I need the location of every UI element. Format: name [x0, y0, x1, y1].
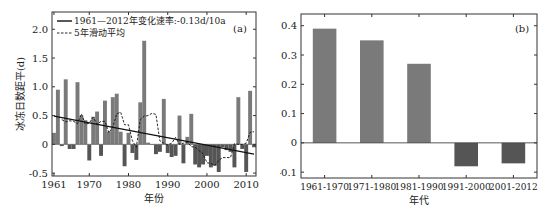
y-tick-label: 0.1 [281, 108, 297, 119]
bar [197, 144, 201, 167]
bar [111, 97, 115, 144]
bar [91, 117, 95, 145]
bar [454, 143, 478, 166]
figure: -0.500.51.01.52.019611970198019902000201… [0, 0, 557, 216]
bar [68, 144, 72, 149]
bar [154, 144, 158, 154]
x-tick-label: 1980 [116, 179, 141, 190]
bar [76, 82, 80, 144]
y-axis-label: 冰冻日数距平(d) [14, 57, 26, 131]
bar [99, 144, 103, 156]
bar [127, 133, 131, 145]
bar [360, 40, 384, 143]
bar [166, 144, 170, 153]
panel-label: (a) [233, 23, 247, 34]
bar [107, 132, 111, 145]
x-tick-label: 1981-1990 [395, 182, 444, 192]
bar [229, 144, 233, 151]
bar [138, 102, 142, 144]
bar [240, 144, 244, 149]
panel-label: (b) [515, 23, 529, 34]
x-tick-label: 2001-2012 [489, 182, 538, 192]
bar [52, 133, 56, 145]
y-tick-label: -0.1 [280, 167, 297, 178]
chart-b-decadal-anomaly: 1961-19701971-19801981-19901991-20002001… [280, 0, 557, 216]
legend-trend-label: 1961—2012年变化速率:-0.13d/10a [74, 15, 226, 26]
y-tick-label: 0 [291, 137, 297, 148]
bar [64, 79, 68, 144]
bar [217, 144, 221, 172]
bar [189, 114, 193, 144]
bar [236, 97, 240, 144]
y-tick-label: 0 [42, 139, 48, 150]
bar [79, 116, 83, 145]
bar [201, 144, 205, 164]
x-tick-label: 1961 [41, 179, 66, 190]
x-axis-label: 年代 [409, 194, 429, 206]
bar [407, 64, 431, 143]
bar [221, 144, 225, 147]
x-tick-label: 1991-2000 [442, 182, 491, 192]
x-tick-label: 2000 [194, 179, 219, 190]
x-tick-label: 1961-1970 [300, 182, 349, 192]
x-tick-label: 1971-1980 [347, 182, 396, 192]
bar [181, 144, 185, 163]
bar [158, 144, 162, 151]
bar [142, 41, 146, 145]
bar [313, 29, 337, 143]
y-tick-label: 0.5 [32, 110, 48, 121]
x-tick-label: 1970 [77, 179, 102, 190]
y-tick-label: 1.5 [32, 53, 48, 64]
bar [72, 144, 76, 149]
x-tick-label: 1990 [155, 179, 180, 190]
bar [170, 144, 174, 157]
y-tick-label: -0.5 [29, 168, 48, 179]
y-tick-label: 0.4 [281, 20, 297, 31]
bar [95, 112, 99, 145]
legend-ma-label: 5年滑动平均 [74, 27, 125, 38]
y-tick-label: 2.0 [32, 24, 48, 35]
y-tick-label: 0.2 [281, 79, 297, 90]
bar [123, 144, 127, 166]
bar [502, 143, 526, 164]
bar [174, 144, 178, 156]
chart-a-annual-anomaly: -0.500.51.01.52.019611970198019902000201… [0, 0, 280, 216]
bar [130, 144, 134, 153]
bar [87, 144, 91, 160]
bar [244, 144, 248, 172]
y-tick-label: 1.0 [32, 81, 48, 92]
bar [119, 132, 123, 145]
x-tick-label: 2010 [233, 179, 258, 190]
bar [103, 101, 107, 145]
y-tick-label: 0.3 [281, 50, 297, 61]
x-axis-label: 年份 [144, 192, 164, 204]
